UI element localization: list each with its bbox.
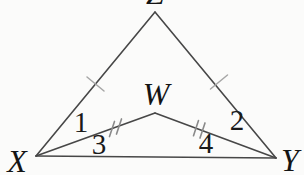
figure-canvas: Z W X Y 1 2 3 4	[0, 0, 304, 175]
double-tick-marks	[110, 119, 206, 138]
vertex-label-y: Y	[281, 142, 302, 175]
single-tick-xz-icon	[87, 77, 104, 91]
angle-label-4: 4	[199, 127, 214, 159]
vertex-label-z: Z	[146, 0, 165, 11]
angle-label-2: 2	[230, 104, 245, 136]
geometry-figure: Z W X Y 1 2 3 4	[0, 0, 304, 175]
vertex-label-x: X	[5, 143, 28, 175]
angle-label-3: 3	[92, 128, 107, 160]
angle-label-1: 1	[74, 106, 89, 138]
vertex-label-w: W	[143, 76, 173, 112]
line-xy	[36, 156, 276, 158]
